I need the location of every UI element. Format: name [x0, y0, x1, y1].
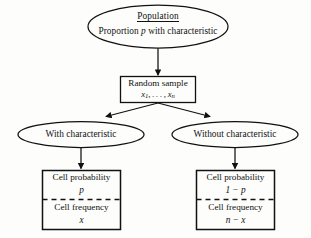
node-population-shape	[88, 5, 228, 48]
diagram-canvas: Population Proportion p with characteris…	[0, 0, 311, 238]
edge-sample-to-without	[158, 103, 210, 117]
node-without-characteristic-shape	[172, 122, 298, 148]
edge-sample-to-with	[106, 103, 158, 117]
node-with-characteristic-shape	[18, 122, 144, 148]
node-random-sample-shape	[121, 77, 196, 103]
diagram-graphics	[0, 0, 311, 238]
